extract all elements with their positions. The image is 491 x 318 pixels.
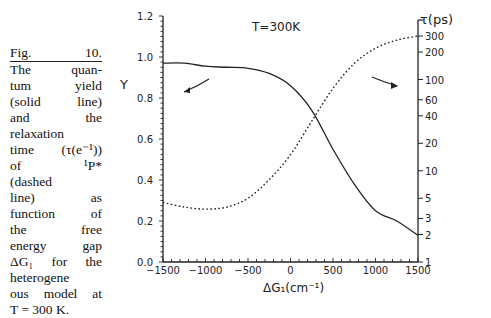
y-left-tick-label: 1.0 <box>137 52 153 63</box>
chart-title: T=300K <box>251 20 301 34</box>
y-left-tick-label: 0.2 <box>137 216 153 227</box>
chart-axes: 0.00.20.40.60.81.01.2−1500−1000−50005001… <box>137 11 444 277</box>
y-right-tick-label: 300 <box>425 31 444 42</box>
x-tick-label: 0 <box>287 265 293 276</box>
arrow-to-right-axis-icon <box>372 77 398 89</box>
y-right-tick-label: 40 <box>425 111 438 122</box>
x-tick-label: 500 <box>323 265 342 276</box>
x-tick-label: −1000 <box>189 265 223 276</box>
y-left-tick-label: 0.4 <box>137 175 153 186</box>
y-right-tick-label: 200 <box>425 47 444 58</box>
chart-plot-area <box>163 36 418 235</box>
y-right-tick-label: 2 <box>425 230 431 241</box>
y-right-axis-label: τ(ps) <box>420 12 453 27</box>
y-left-axis-label: Y <box>119 77 128 92</box>
x-tick-label: 1000 <box>363 265 388 276</box>
y-right-tick-label: 10 <box>425 166 438 177</box>
y-right-tick-label: 3 <box>425 213 431 224</box>
relaxation-time-line <box>163 36 418 209</box>
y-left-tick-label: 0.8 <box>137 93 153 104</box>
y-right-tick-label: 5 <box>425 193 431 204</box>
y-right-tick-label: 100 <box>425 75 444 86</box>
arrow-to-left-axis-icon <box>184 79 209 93</box>
quantum-yield-line <box>163 63 418 235</box>
y-right-tick-label: 20 <box>425 138 438 149</box>
y-right-tick-label: 60 <box>425 95 438 106</box>
y-left-tick-label: 0.6 <box>137 134 153 145</box>
x-axis-label: ΔG₁(cm⁻¹) <box>263 281 324 295</box>
x-tick-label: −500 <box>234 265 261 276</box>
y-left-tick-label: 1.2 <box>137 11 153 22</box>
y-right-tick-label: 1 <box>425 257 431 268</box>
x-tick-label: −1500 <box>146 265 180 276</box>
